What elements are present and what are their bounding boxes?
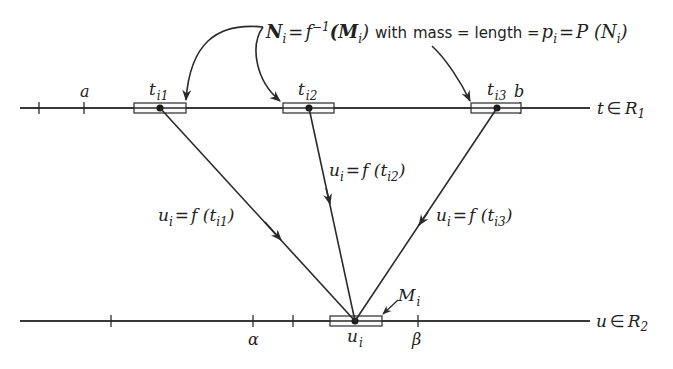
label-ti2: ti2 [298, 79, 317, 103]
edge-label-2: ui=f (ti2) [329, 160, 405, 184]
arrow-mi [383, 300, 398, 314]
arrow-mass-to-ti3 [432, 46, 470, 101]
label-alpha: α [248, 330, 259, 349]
formula-text: Ni=f−1(Mi)withmass = length =pi=P (Ni) [265, 20, 628, 46]
arrow-edge-2 [326, 188, 330, 204]
arrow-edge-3 [419, 212, 428, 225]
arrow-edge-1 [265, 222, 281, 240]
label-ti3: ti3 [487, 79, 507, 103]
edge-ti1-ui [160, 108, 355, 321]
label-beta: β [411, 330, 421, 349]
mapping-edges: ui=f (ti1) ui=f (ti2) ui=f (ti3) [158, 108, 512, 321]
label-b: b [514, 82, 524, 101]
label-ti1: ti1 [149, 79, 168, 103]
header-formula: Ni=f−1(Mi)withmass = length =pi=P (Ni) [186, 20, 628, 101]
label-mi: Mi [397, 285, 420, 309]
edge-ti2-ui [309, 108, 355, 321]
bottom-axis-label: u∈R2 [596, 311, 648, 334]
label-a: a [80, 82, 90, 101]
edge-label-1: ui=f (ti1) [158, 205, 234, 229]
bottom-axis: α β ui Mi u∈R2 [20, 285, 648, 350]
mapping-diagram: a b ti1 ti2 ti3 t∈R1 α β ui Mi u∈R2 ui=f… [0, 0, 673, 369]
arrow-ni-to-ti1 [186, 26, 263, 100]
edge-label-3: ui=f (ti3) [436, 205, 512, 229]
label-ui: ui [347, 326, 363, 350]
top-axis: a b ti1 ti2 ti3 t∈R1 [20, 79, 645, 121]
top-axis-label: t∈R1 [597, 98, 645, 121]
